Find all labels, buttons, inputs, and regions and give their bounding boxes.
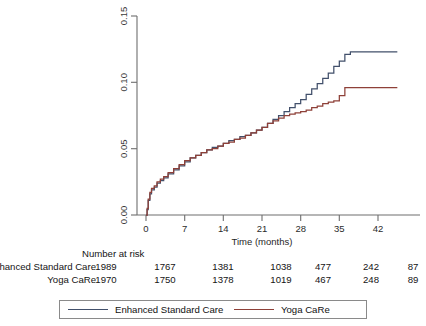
- x-tick-label: 28: [295, 223, 306, 234]
- risk-count: 87: [396, 261, 426, 272]
- risk-count: 1767: [148, 261, 182, 272]
- chart-legend: Enhanced Standard Care Yoga CaRe: [59, 300, 367, 319]
- risk-count: 477: [306, 261, 340, 272]
- risk-row-label: Enhanced Standard Care: [0, 261, 96, 272]
- risk-count: 1970: [89, 274, 123, 285]
- y-tick-label: 0.00: [118, 206, 129, 225]
- y-tick-label: 0.15: [118, 7, 129, 26]
- x-tick-label: 21: [257, 223, 268, 234]
- risk-count: 1038: [264, 261, 298, 272]
- legend-label: Yoga CaRe: [281, 304, 330, 315]
- risk-count: 1750: [148, 274, 182, 285]
- table-row: Enhanced Standard Care 1989 1767 1381 10…: [0, 261, 426, 274]
- risk-count: 242: [354, 261, 388, 272]
- x-tick-label: 7: [182, 223, 187, 234]
- survival-curve-figure: 0.00 0.05 0.10 0.15 0 7 14 21 28 35 42 T…: [0, 0, 426, 326]
- risk-count: 1381: [206, 261, 240, 272]
- y-tick-label: 0.05: [118, 139, 129, 158]
- legend-line-swatch: [68, 309, 108, 310]
- legend-item-yoga-care: Yoga CaRe: [234, 301, 330, 318]
- risk-count: 467: [306, 274, 340, 285]
- curve-group: [146, 52, 397, 215]
- x-axis-ticks: [146, 215, 378, 221]
- risk-count: 1019: [264, 274, 298, 285]
- x-tick-label: 14: [218, 223, 229, 234]
- legend-item-enhanced-standard-care: Enhanced Standard Care: [68, 301, 223, 318]
- y-tick-label-group: 0.00 0.05 0.10 0.15: [118, 7, 129, 225]
- legend-line-swatch: [234, 309, 274, 310]
- risk-count: 1989: [89, 261, 123, 272]
- legend-label: Enhanced Standard Care: [115, 304, 223, 315]
- x-tick-label: 0: [143, 223, 148, 234]
- x-axis-title: Time (months): [232, 236, 293, 247]
- y-tick-label: 0.10: [118, 73, 129, 92]
- y-axis-ticks: [131, 16, 137, 215]
- risk-count: 248: [354, 274, 388, 285]
- x-tick-label: 35: [334, 223, 345, 234]
- risk-count: 89: [396, 274, 426, 285]
- x-tick-label-group: 0 7 14 21 28 35 42: [143, 223, 383, 234]
- x-tick-label: 42: [373, 223, 384, 234]
- series-line-yoga-care: [146, 88, 397, 215]
- series-line-enhanced-standard-care: [146, 52, 397, 215]
- table-row: Yoga CaRe 1970 1750 1378 1019 467 248 89: [0, 274, 426, 287]
- risk-count: 1378: [206, 274, 240, 285]
- risk-table-title: Number at risk: [82, 248, 144, 259]
